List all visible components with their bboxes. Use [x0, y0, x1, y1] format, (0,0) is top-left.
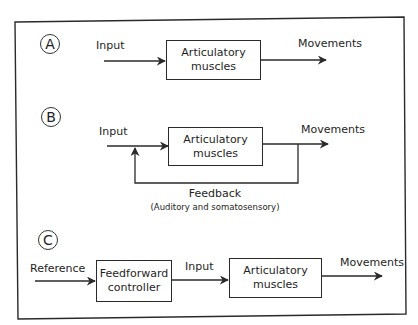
panel-b-letter: B [46, 109, 56, 125]
panel-c-marker: C [38, 230, 58, 250]
panel-b-box-line2: muscles [193, 147, 238, 161]
panel-c-controller-line1: Feedforward [100, 267, 168, 281]
panel-b-output-label: Movements [301, 123, 365, 136]
panel-a-box-line2: muscles [191, 60, 236, 74]
panel-c-muscles-box: Articulatory muscles [229, 258, 322, 298]
panel-c-box-line2: muscles [253, 278, 298, 292]
panel-a-letter: A [45, 36, 55, 52]
panel-a-output-label: Movements [298, 37, 362, 50]
panel-c-box-line1: Articulatory [243, 264, 307, 278]
panel-c-controller-line2: controller [108, 281, 160, 295]
panel-b-input-label: Input [99, 125, 127, 138]
panel-b-marker: B [41, 107, 61, 127]
panel-a-input-label: Input [96, 39, 124, 52]
panel-b-feedback-sublabel: (Auditory and somatosensory) [151, 202, 280, 212]
panel-a-muscles-box: Articulatory muscles [166, 40, 261, 80]
panel-c-letter: C [43, 232, 53, 248]
panel-a-marker: A [40, 34, 60, 54]
panel-c-input-label: Input [185, 260, 213, 273]
panel-c-reference-label: Reference [30, 262, 85, 275]
panel-b-box-line1: Articulatory [183, 133, 247, 147]
panel-a-box-line1: Articulatory [181, 46, 245, 60]
panel-c-output-label: Movements [340, 256, 404, 269]
panel-b-muscles-box: Articulatory muscles [168, 127, 263, 166]
panel-b-feedback-label: Feedback [189, 187, 241, 200]
panel-c-controller-box: Feedforward controller [96, 260, 172, 302]
